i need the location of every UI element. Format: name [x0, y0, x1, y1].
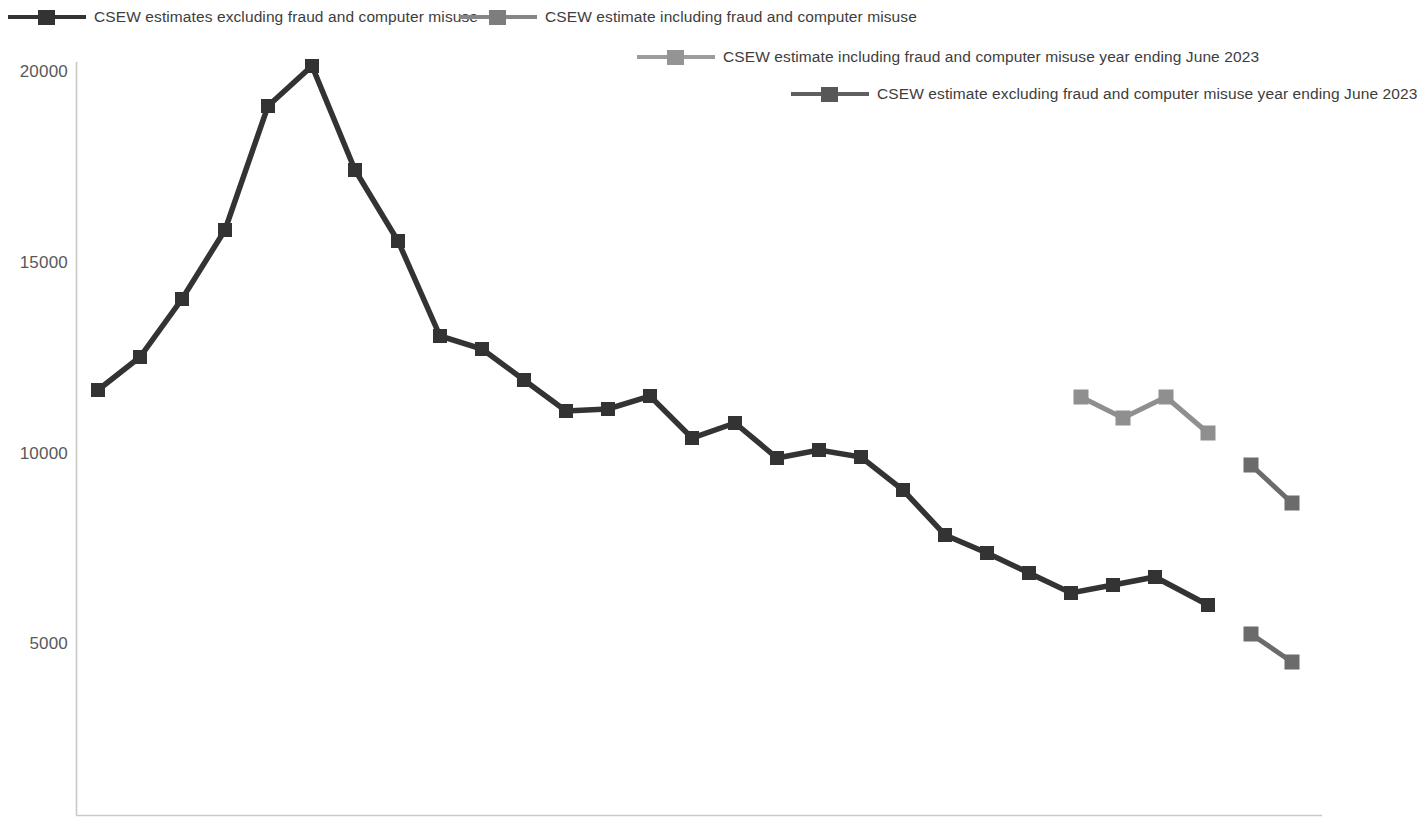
data-point-marker [559, 404, 573, 418]
data-point-marker [643, 389, 657, 403]
data-point-marker [1106, 578, 1120, 592]
data-point-marker [1244, 458, 1259, 473]
data-point-marker [261, 99, 275, 113]
data-point-marker [1064, 586, 1078, 600]
data-point-marker [348, 163, 362, 177]
data-point-marker [601, 402, 615, 416]
data-point-marker [91, 383, 105, 397]
data-point-marker [896, 483, 910, 497]
data-point-marker [1201, 426, 1216, 441]
data-point-marker [1022, 566, 1036, 580]
data-point-marker [475, 342, 489, 356]
data-point-marker [1201, 598, 1215, 612]
data-point-marker [1159, 390, 1174, 405]
data-point-marker [391, 234, 405, 248]
series-csew-excluding-fraud-ye-june-2023 [1244, 458, 1300, 511]
data-point-marker [770, 451, 784, 465]
data-point-marker [517, 373, 531, 387]
data-point-marker [1148, 570, 1162, 584]
data-point-marker [685, 431, 699, 445]
series-csew-excluding-fraud [91, 59, 1215, 612]
data-point-marker [980, 546, 994, 560]
data-point-marker [433, 329, 447, 343]
series-line [98, 66, 1208, 605]
data-point-marker [305, 59, 319, 73]
data-point-marker [938, 528, 952, 542]
data-point-marker [1116, 411, 1131, 426]
data-point-marker [728, 416, 742, 430]
data-point-marker [812, 443, 826, 457]
data-point-marker [1074, 390, 1089, 405]
series-line [1081, 397, 1208, 433]
data-point-marker [175, 292, 189, 306]
series-csew-including-fraud-ye-june-2023 [1074, 390, 1216, 441]
series-csew-lower-segment [1244, 627, 1300, 670]
data-point-marker [218, 223, 232, 237]
data-point-marker [133, 350, 147, 364]
data-point-marker [1244, 627, 1259, 642]
data-point-marker [1285, 496, 1300, 511]
data-point-marker [1285, 655, 1300, 670]
data-point-marker [854, 450, 868, 464]
